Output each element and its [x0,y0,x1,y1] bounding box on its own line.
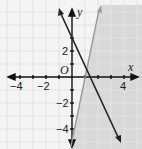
x-tick-label: −4 [10,80,23,92]
x-tick-label: 4 [120,80,126,92]
y-tick-label: −4 [56,123,69,135]
origin-label: O [60,63,69,77]
x-tick-label: −2 [37,80,50,92]
y-axis-label: y [76,5,83,19]
graph-svg: y x O −4 −2 4 2 −2 −4 [0,0,142,149]
coordinate-graph: y x O −4 −2 4 2 −2 −4 [0,0,142,149]
y-tick-label: −2 [56,97,69,109]
x-axis-label: x [127,60,134,74]
y-tick-label: 2 [62,45,68,57]
